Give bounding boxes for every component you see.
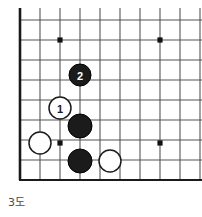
figure-caption: 3도	[8, 196, 26, 210]
go-diagram-figure: 21 3도	[0, 0, 202, 217]
star-point-upper-right	[157, 37, 162, 42]
go-board[interactable]: 21	[0, 0, 202, 190]
star-point-upper-left	[57, 37, 62, 42]
black-stone-lower[interactable]	[68, 149, 92, 173]
black-stone-disc[interactable]	[68, 114, 92, 138]
black-stone-move-2[interactable]: 2	[69, 64, 91, 86]
black-stone-center[interactable]	[68, 114, 92, 138]
star-point-lower-right	[157, 140, 162, 145]
stone-move-number: 1	[57, 103, 63, 115]
go-board-canvas[interactable]: 21	[0, 0, 202, 190]
black-stone-disc[interactable]	[68, 149, 92, 173]
star-point-lower-left	[57, 140, 62, 145]
white-stone-disc[interactable]	[99, 150, 121, 172]
stone-move-number: 2	[77, 70, 83, 82]
white-stone-lower-right[interactable]	[99, 150, 121, 172]
white-stone-left[interactable]	[29, 132, 51, 154]
white-stone-move-1[interactable]: 1	[49, 97, 71, 119]
white-stone-disc[interactable]	[29, 132, 51, 154]
